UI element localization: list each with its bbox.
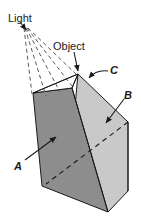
- label-object: Object: [53, 40, 85, 52]
- edge-c-leader-arrow: [89, 71, 108, 78]
- light-ray-3: [26, 28, 60, 92]
- light-ray-5: [28, 28, 78, 76]
- label-face-a: A: [13, 160, 22, 172]
- light-ray-2: [25, 28, 46, 96]
- label-light: Light: [8, 12, 32, 24]
- prism-light-diagram: Light Object C B A: [0, 0, 141, 224]
- object-leader-arrow: [74, 52, 78, 71]
- label-face-b: B: [124, 89, 132, 101]
- diagram-canvas: Light Object C B A: [0, 0, 141, 224]
- label-edge-c: C: [110, 64, 119, 76]
